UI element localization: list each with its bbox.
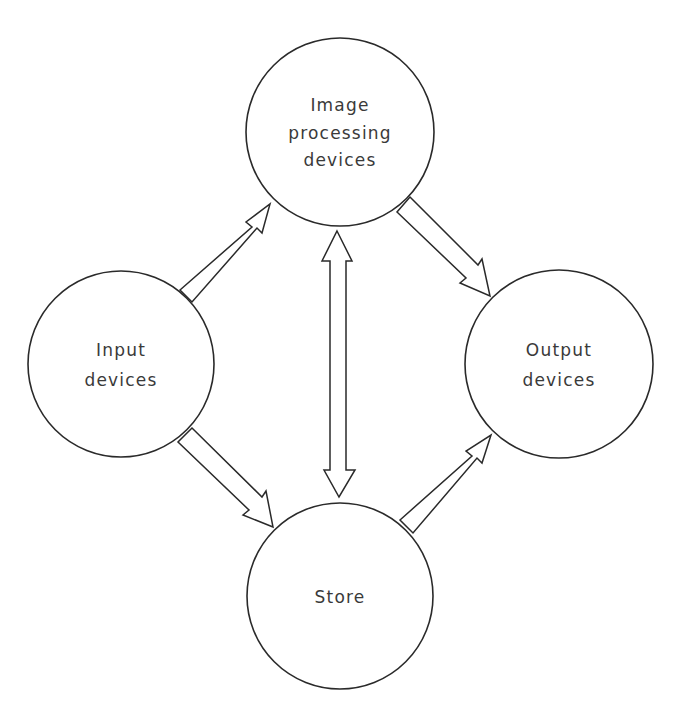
node-label-line: Output [526,340,592,360]
node-label-line: processing [288,123,392,143]
node-label-line: Image [310,95,369,115]
node-circle [465,270,653,458]
node-label-line: devices [303,150,376,170]
arrow-input-to-store [178,428,273,527]
node-label-line: devices [84,370,157,390]
node-store: Store [247,503,433,689]
node-label-line: Store [315,587,366,607]
node-image-processing-devices: Image processing devices [246,38,434,226]
node-output-devices: Output devices [465,270,653,458]
arrow-image-processing-to-output [397,197,490,296]
arrow-image-processing-store-bidirectional [322,231,355,497]
node-input-devices: Input devices [28,271,214,457]
node-circle [28,271,214,457]
arrow-store-to-output [400,435,491,533]
node-label-line: devices [522,370,595,390]
system-diagram: Image processing devices Input devices O… [0,0,679,708]
node-label-line: Input [96,340,146,360]
arrow-input-to-image-processing [180,204,270,302]
